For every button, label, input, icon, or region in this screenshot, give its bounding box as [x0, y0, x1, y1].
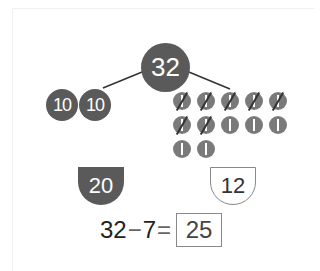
one-circle: [173, 140, 191, 158]
one-glyph: [229, 119, 231, 131]
crossed-one-circle: [197, 92, 215, 110]
one-circle: [221, 116, 239, 134]
whole-number-circle: 32: [141, 43, 190, 92]
one-circle: [245, 116, 263, 134]
answer-box[interactable]: 25: [176, 213, 222, 247]
ten-circle: 10: [46, 89, 78, 121]
one-circle: [269, 116, 287, 134]
crossed-one-circle: [245, 92, 263, 110]
crossed-one-circle: [173, 92, 191, 110]
one-glyph: [253, 119, 255, 131]
one-circle: [197, 140, 215, 158]
one-glyph: [205, 143, 207, 155]
equals-sign: =: [157, 216, 171, 244]
whole-number-label: 32: [151, 52, 180, 83]
ones-total-label: 12: [221, 173, 245, 199]
crossed-one-circle: [221, 92, 239, 110]
crossed-one-circle: [269, 92, 287, 110]
ten-label: 10: [53, 95, 71, 116]
right-branch-line: [184, 70, 230, 89]
minus-sign: −: [128, 216, 142, 244]
equation-minuend: 32: [100, 216, 127, 244]
one-glyph: [277, 119, 279, 131]
crossed-one-circle: [173, 116, 191, 134]
left-branch-line: [103, 70, 147, 88]
tens-total-label: 20: [89, 173, 113, 199]
equation: 32 − 7 = 25: [100, 213, 222, 247]
ten-label: 10: [86, 95, 104, 116]
equation-subtrahend: 7: [143, 216, 156, 244]
ten-circle: 10: [79, 89, 111, 121]
one-glyph: [181, 143, 183, 155]
crossed-one-circle: [197, 116, 215, 134]
